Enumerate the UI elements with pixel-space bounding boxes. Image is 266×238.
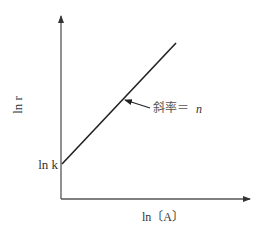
diagram-canvas: ln r ln k 斜率＝ n ln〔A〕 xyxy=(0,0,266,238)
slope-arrow xyxy=(125,100,150,108)
x-axis-label: ln〔A〕 xyxy=(142,210,184,224)
intercept-label: ln k xyxy=(38,157,58,172)
y-axis-label: ln r xyxy=(10,95,25,113)
slope-label: 斜率＝ xyxy=(153,100,189,115)
slope-variable: n xyxy=(196,102,202,116)
